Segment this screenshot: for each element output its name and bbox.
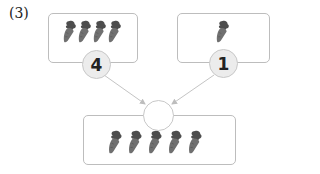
carrot-icon: [93, 20, 108, 43]
carrot-icon: [168, 130, 184, 154]
carrot-group-5: [108, 130, 204, 154]
number-circle-right: 1: [209, 49, 238, 78]
carrot-group-4: [63, 20, 123, 43]
carrot-group-1: [216, 20, 231, 43]
number-circle-left: 4: [82, 50, 111, 79]
answer-circle[interactable]: [143, 100, 174, 131]
carrot-icon: [188, 130, 204, 154]
carrot-icon: [148, 130, 164, 154]
carrot-icon: [78, 20, 93, 43]
carrot-icon: [216, 20, 231, 43]
carrot-icon: [63, 20, 78, 43]
carrot-icon: [128, 130, 144, 154]
carrot-icon: [108, 20, 123, 43]
carrot-icon: [108, 130, 124, 154]
